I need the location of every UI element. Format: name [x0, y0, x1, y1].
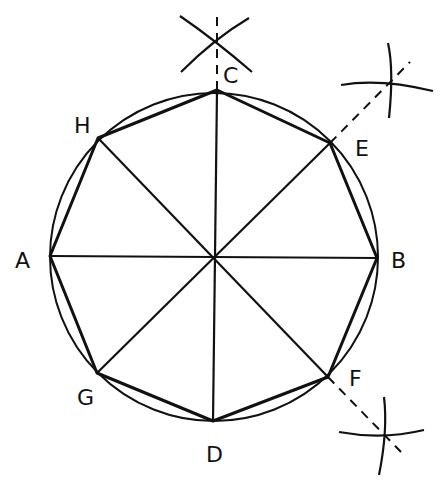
label-g: G	[77, 385, 94, 410]
label-h: H	[74, 113, 91, 138]
label-f: F	[349, 366, 362, 391]
label-e: E	[355, 136, 369, 161]
octagon-construction-diagram: C E H A B F G D	[0, 0, 441, 489]
label-b: B	[391, 248, 406, 273]
label-c: C	[223, 63, 238, 88]
label-d: D	[206, 442, 223, 467]
label-a: A	[15, 248, 30, 273]
